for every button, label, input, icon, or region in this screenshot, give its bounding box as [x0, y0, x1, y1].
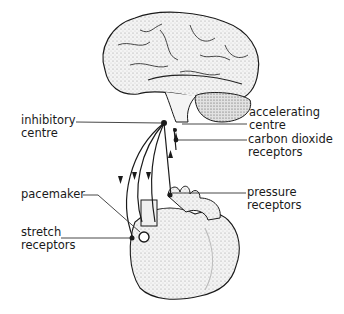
label-stretch-receptors: stretch receptors	[21, 226, 76, 252]
accelerating-centre-node	[173, 128, 177, 132]
label-accelerating-centre: accelerating centre	[249, 106, 320, 132]
label-inhibitory-centre: inhibitory centre	[21, 114, 76, 140]
pressure-receptor-node	[168, 193, 173, 198]
label-carbon-dioxide-receptors: carbon dioxide receptors	[248, 133, 333, 159]
pacemaker-node	[139, 232, 149, 242]
co2-receptor-node	[174, 138, 179, 143]
nerve-path-4	[164, 123, 171, 196]
label-pacemaker: pacemaker	[21, 188, 85, 201]
stretch-receptor-node	[130, 236, 135, 241]
brain-illustration	[103, 12, 259, 122]
heart-illustration	[130, 186, 239, 299]
label-pressure-receptors: pressure receptors	[247, 186, 302, 212]
